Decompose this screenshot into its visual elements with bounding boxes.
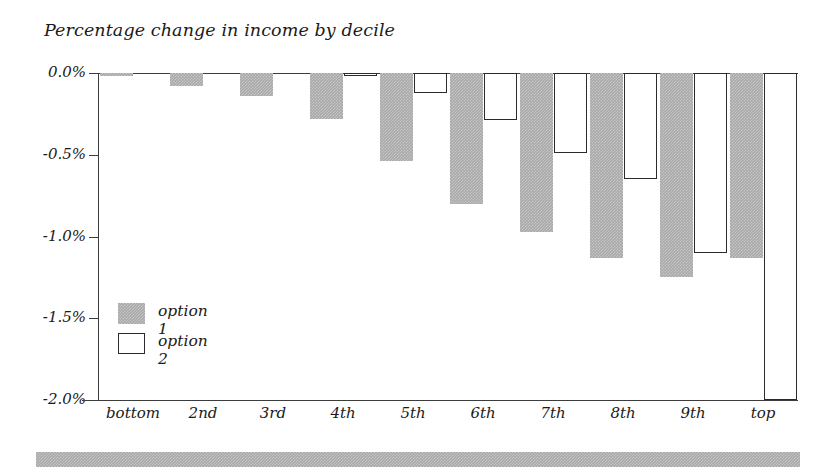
bar-top-option-2 [764,73,797,400]
x-tick-label-bottom: bottom [98,404,168,422]
y-tick-label-1: -0.5% [43,145,86,163]
chart-title: Percentage change in income by decile [44,20,395,40]
bar-6th-option-2 [484,73,517,120]
bar-bottom-option-1 [100,73,133,76]
y-tick-mark-3 [89,318,98,319]
y-tick-label-2: -1.0% [43,227,86,245]
bar-3rd-option-1 [240,73,273,96]
bar-4th-option-1 [310,73,343,119]
bar-6th-option-1 [450,73,483,204]
bar-7th-option-1 [520,73,553,232]
x-tick-label-9th: 9th [658,404,728,422]
x-tick-label-8th: 8th [588,404,658,422]
y-tick-label-0: 0.0% [48,63,86,81]
bar-top-option-1 [730,73,763,258]
y-tick-mark-2 [89,237,98,238]
bar-8th-option-2 [624,73,657,179]
x-tick-label-6th: 6th [448,404,518,422]
bottom-decorative-band [36,452,800,467]
y-axis-labels: 0.0%-0.5%-1.0%-1.5%-2.0% [0,73,86,400]
x-tick-label-3rd: 3rd [238,404,308,422]
x-tick-label-7th: 7th [518,404,588,422]
bar-5th-option-1 [380,73,413,161]
x-tick-label-5th: 5th [378,404,448,422]
bar-2nd-option-1 [170,73,203,86]
x-axis-line [82,400,798,401]
bar-5th-option-2 [414,73,447,93]
bar-4th-option-2 [344,73,377,76]
y-tick-mark-4 [89,400,98,401]
x-axis-labels: bottom2nd3rd4th5th6th7th8th9thtop [98,404,798,430]
y-tick-label-4: -2.0% [43,390,86,408]
x-tick-label-2nd: 2nd [168,404,238,422]
x-tick-label-4th: 4th [308,404,378,422]
x-tick-label-top: top [728,404,798,422]
y-tick-mark-0 [89,73,98,74]
legend-swatch-option-1 [118,303,145,324]
bar-9th-option-2 [694,73,727,253]
bar-9th-option-1 [660,73,693,277]
y-axis-line [98,73,99,400]
bar-7th-option-2 [554,73,587,153]
bar-8th-option-1 [590,73,623,258]
legend-swatch-option-2 [118,333,145,354]
legend-label-option-2: option 2 [158,332,208,368]
y-tick-label-3: -1.5% [43,308,86,326]
chart-container: Percentage change in income by decile 0.… [0,0,830,468]
y-tick-mark-1 [89,155,98,156]
